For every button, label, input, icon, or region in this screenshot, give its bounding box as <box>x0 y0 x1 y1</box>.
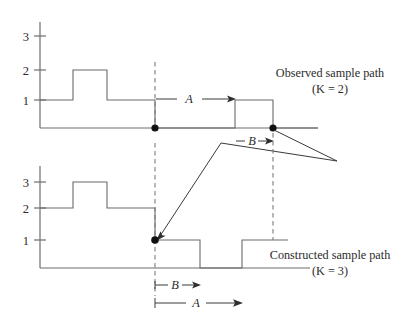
figure-svg: 3 2 1 A B <box>0 0 405 322</box>
constructed-tick-label-2: 2 <box>23 202 29 216</box>
constructed-caption-line1: Constructed sample path <box>270 248 391 262</box>
observed-measure-a: A <box>156 92 236 106</box>
panel-connector <box>156 130 337 241</box>
observed-marker-left <box>151 124 158 131</box>
constructed-measure-b: B <box>155 278 201 292</box>
observed-measure-b-label: B <box>248 134 256 148</box>
observed-tick-label-2: 2 <box>23 64 29 78</box>
observed-panel: 3 2 1 A B <box>23 22 384 148</box>
observed-caption-line2: (K = 2) <box>312 82 348 96</box>
constructed-tick-label-3: 3 <box>23 176 29 190</box>
observed-tick-label-3: 3 <box>23 30 29 44</box>
constructed-tick-label-1: 1 <box>23 234 29 248</box>
constructed-step-path <box>40 182 288 268</box>
constructed-measure-a-label: A <box>191 296 200 310</box>
constructed-caption-line2: (K = 3) <box>312 264 348 278</box>
sample-path-figure: 3 2 1 A B <box>0 0 405 322</box>
observed-caption-line1: Observed sample path <box>276 66 384 80</box>
constructed-measure-a: A <box>155 296 243 310</box>
observed-tick-label-1: 1 <box>23 94 29 108</box>
constructed-measure-b-label: B <box>171 278 179 292</box>
observed-measure-a-label: A <box>184 92 193 106</box>
constructed-marker <box>151 236 159 244</box>
